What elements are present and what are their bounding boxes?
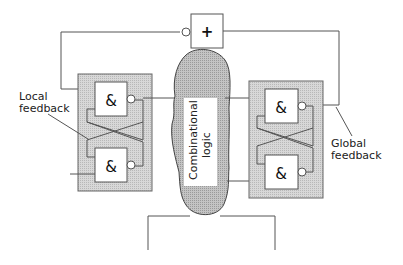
inverter-bubble-icon xyxy=(298,168,306,176)
left-latch: & & xyxy=(70,74,176,191)
inverter-bubble-icon xyxy=(298,102,306,110)
svg-text:&: & xyxy=(105,92,117,110)
svg-text:feedback: feedback xyxy=(331,149,382,162)
svg-text:feedback: feedback xyxy=(19,102,70,115)
global-feedback-label: Global feedback xyxy=(331,107,382,162)
svg-text:&: & xyxy=(275,165,287,183)
or-gate: + xyxy=(182,14,223,48)
inverter-bubble-icon xyxy=(127,161,135,169)
right-latch: & & xyxy=(249,81,323,198)
inverter-bubble-icon xyxy=(127,95,135,103)
svg-text:&: & xyxy=(105,158,117,176)
sequential-circuit-diagram: + & & Local feedback Co xyxy=(0,0,403,265)
inverter-bubble-icon xyxy=(182,28,190,36)
or-symbol: + xyxy=(201,23,214,41)
svg-text:&: & xyxy=(275,99,287,117)
svg-text:Combinational: Combinational xyxy=(187,100,200,180)
svg-text:logic: logic xyxy=(200,132,213,158)
